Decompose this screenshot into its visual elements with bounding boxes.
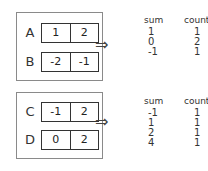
sum-value: 4: [144, 138, 182, 148]
row-label: D: [23, 132, 37, 147]
row-label: A: [23, 25, 37, 40]
count-value: 1: [182, 47, 208, 57]
cell: -1: [70, 53, 99, 71]
count-value: 1: [182, 138, 208, 148]
cell: -2: [42, 53, 70, 71]
result-row: 4 1: [144, 138, 208, 148]
result-header: sum count: [144, 96, 208, 106]
header-sum: sum: [144, 15, 178, 25]
row-label: B: [23, 54, 37, 69]
double-arrow-icon: ⇒: [95, 37, 108, 53]
result-table-2: sum count -1 1 1 1 2 1 4 1: [144, 96, 208, 148]
row-label: C: [23, 104, 37, 119]
value-cells: -2 -1: [41, 52, 99, 72]
result-header: sum count: [144, 15, 208, 25]
value-cells: 0 2: [41, 130, 99, 150]
result-row: -1 1: [144, 47, 208, 57]
cell: 0: [42, 131, 70, 149]
group-box-cd: C -1 2 D 0 2: [16, 92, 103, 159]
header-sum: sum: [144, 96, 178, 106]
value-cells: 1 2: [41, 23, 99, 43]
double-arrow-icon: ⇒: [95, 114, 108, 130]
group-box-ab: A 1 2 B -2 -1: [16, 12, 103, 81]
value-cells: -1 2: [41, 102, 99, 122]
sum-value: -1: [144, 47, 182, 57]
header-count: count: [178, 96, 208, 106]
cell: -1: [42, 103, 70, 121]
cell: 2: [70, 24, 99, 42]
cell: 1: [42, 24, 70, 42]
cell: 2: [70, 131, 99, 149]
cell: 2: [70, 103, 99, 121]
header-count: count: [178, 15, 208, 25]
result-table-1: sum count 1 1 0 2 -1 1: [144, 15, 208, 57]
